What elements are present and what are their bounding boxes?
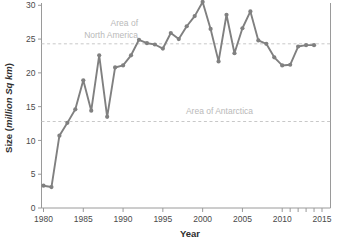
data-point-1986	[89, 109, 93, 113]
data-point-2007	[256, 38, 260, 42]
data-point-1991	[129, 53, 133, 57]
ozone-hole-size-chart: Area ofNorth AmericaArea of Antarctica05…	[0, 0, 339, 243]
data-point-2005	[240, 26, 244, 30]
y-tick-label-5: 5	[31, 169, 36, 179]
data-point-1988	[105, 115, 109, 119]
data-point-1989	[113, 65, 117, 69]
x-tick-label-1990: 1990	[114, 214, 133, 224]
x-axis-title: Year	[180, 228, 200, 239]
data-point-2004	[232, 51, 236, 55]
y-tick-label-20: 20	[26, 68, 36, 78]
x-tick-label-2005: 2005	[233, 214, 252, 224]
data-point-2006	[248, 9, 252, 13]
annotation-antarctica-label: Area of Antarctica	[186, 106, 253, 116]
data-point-1984	[73, 107, 77, 111]
data-point-1998	[185, 24, 189, 28]
y-axis-title: Size (million Sq km)	[3, 63, 14, 153]
x-axis-ticks: 19801985199019952000200520102015	[34, 208, 332, 224]
annotation-north-america-line-2: North America	[84, 30, 138, 40]
data-point-1999	[193, 14, 197, 18]
x-tick-label-2000: 2000	[193, 214, 212, 224]
data-point-2011	[288, 63, 292, 67]
y-tick-label-0: 0	[31, 203, 36, 213]
chart-canvas: Area ofNorth AmericaArea of Antarctica05…	[0, 0, 339, 243]
annotation-antarctica: Area of Antarctica	[186, 106, 253, 116]
data-point-1981	[49, 185, 53, 189]
data-point-2003	[224, 13, 228, 17]
data-point-2008	[264, 42, 268, 46]
data-point-2014	[312, 43, 316, 47]
data-point-2010	[280, 63, 284, 67]
y-axis-title-units: million Sq km	[3, 66, 14, 128]
data-point-1995	[161, 46, 165, 50]
y-axis-title-suffix: )	[3, 63, 14, 66]
data-point-2012	[296, 44, 300, 48]
data-point-1992	[137, 38, 141, 42]
annotation-north-america: Area ofNorth America	[84, 18, 138, 40]
data-point-1985	[81, 78, 85, 82]
x-tick-label-1985: 1985	[74, 214, 93, 224]
annotation-north-america-line-1: Area of	[111, 18, 139, 28]
y-tick-label-25: 25	[26, 34, 36, 44]
data-point-2001	[209, 27, 213, 31]
data-point-1990	[121, 63, 125, 67]
data-point-1982	[57, 134, 61, 138]
data-point-1993	[145, 41, 149, 45]
data-point-2013	[304, 43, 308, 47]
data-point-2002	[216, 59, 220, 63]
data-point-1994	[153, 42, 157, 46]
data-point-1996	[169, 31, 173, 35]
reference-lines-group: Area ofNorth AmericaArea of Antarctica	[42, 18, 331, 122]
x-tick-label-2015: 2015	[313, 214, 332, 224]
y-tick-label-15: 15	[26, 102, 36, 112]
data-point-2009	[272, 55, 276, 59]
data-series-ozone-hole-size	[41, 0, 316, 189]
y-axis-title-prefix: Size (	[3, 127, 14, 153]
y-tick-label-30: 30	[26, 0, 36, 10]
x-tick-label-1995: 1995	[153, 214, 172, 224]
x-tick-label-2010: 2010	[273, 214, 292, 224]
data-point-1980	[41, 184, 45, 188]
data-point-1997	[177, 37, 181, 41]
data-point-1983	[65, 121, 69, 125]
data-point-1987	[97, 53, 101, 57]
y-tick-label-10: 10	[26, 136, 36, 146]
data-point-2000	[201, 0, 205, 4]
y-axis-ticks: 051015202530	[26, 0, 41, 213]
x-tick-label-1980: 1980	[34, 214, 53, 224]
